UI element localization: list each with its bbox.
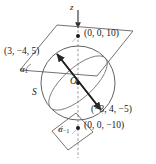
top-pole-dot xyxy=(76,34,80,38)
figure-canvas xyxy=(0,0,156,164)
bottom-pole-label: (0, 0, −10) xyxy=(84,121,124,131)
z-axis-label: z xyxy=(70,3,74,12)
upper-plane-label: α1 xyxy=(20,65,28,74)
bottom-pole-leader xyxy=(72,130,76,134)
top-pole-leader xyxy=(72,38,76,42)
origin-label: O xyxy=(70,77,77,87)
bottom-pole-dot xyxy=(76,126,80,130)
top-pole-label: (0, 0, 10) xyxy=(84,29,119,39)
sphere-label: S xyxy=(32,88,37,98)
lower-plane-subscript: −1 xyxy=(63,127,70,134)
upper-plane-subscript: 1 xyxy=(25,67,28,74)
plane-angle-marks xyxy=(26,64,63,131)
upper-point-label: (3, −4, 5) xyxy=(4,47,39,57)
lower-plane-label: α−1 xyxy=(58,125,69,134)
lower-point-label: (−3, 4, −5) xyxy=(91,105,132,115)
geometry-figure: z (0, 0, 10) (0, 0, −10) (3, −4, 5) (−3,… xyxy=(0,0,156,164)
